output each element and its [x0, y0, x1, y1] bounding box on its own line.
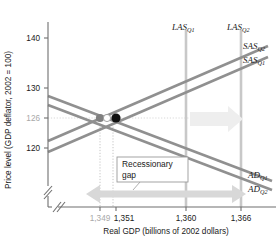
y-tick-label-120: 120: [26, 144, 40, 153]
x-tick-label-1366: 1,366: [231, 214, 252, 223]
equilibrium-point-gray: [96, 114, 104, 122]
svg-text:LASQ2: LASQ2: [226, 22, 250, 33]
svg-text:SASQ2: SASQ2: [243, 41, 265, 52]
ad-q2-label: ADQ2: [247, 184, 268, 195]
y-tick-label-130: 130: [26, 84, 40, 93]
svg-text:ADQ1: ADQ1: [247, 170, 268, 181]
svg-text:SASQ1: SASQ1: [243, 55, 265, 66]
las-q1-label-sub: Q1: [187, 26, 195, 33]
x-tick-label-1349: 1,349: [90, 214, 111, 223]
svg-text:ADQ2: ADQ2: [247, 184, 268, 195]
recessionary-gap-line2: gap: [122, 170, 136, 180]
x-tick-label-1360: 1,360: [176, 214, 197, 223]
sas-q1-label: SASQ1: [243, 55, 265, 66]
aggregate-supply-demand-chart: Recessionary gap 140 130 126 120 1,349 1…: [0, 0, 280, 241]
sas-q1-label-sub: Q1: [258, 59, 266, 66]
potential-gdp-shift-arrow: [190, 106, 243, 132]
ad-q1-label-sub: Q1: [260, 174, 268, 181]
y-axis-title: Price level (GDP deflator, 2002 = 100): [4, 51, 13, 189]
sas-q2-label-sub: Q2: [258, 45, 266, 52]
ad-q2-label-sub: Q2: [260, 188, 268, 195]
las-q1-label: LASQ1: [171, 22, 195, 33]
x-tick-label-1351: 1,351: [114, 214, 135, 223]
ad-q1-label: ADQ1: [247, 170, 268, 181]
las-q2-label-sub: Q2: [242, 26, 250, 33]
x-axis-title: Real GDP (billions of 2002 dollars): [103, 227, 229, 236]
ad-q2-label-main: AD: [247, 184, 260, 194]
svg-text:LASQ1: LASQ1: [171, 22, 195, 33]
y-tick-label-126: 126: [26, 114, 40, 123]
sas-q2-label: SASQ2: [243, 41, 265, 52]
sas-q2-curve: [48, 46, 268, 141]
recessionary-gap-leader-line: [133, 182, 140, 190]
recessionary-gap-callout: Recessionary gap: [117, 157, 188, 190]
recessionary-gap-line1: Recessionary: [122, 159, 174, 169]
sas-q1-label-main: SAS: [243, 55, 258, 65]
las-q2-label: LASQ2: [226, 22, 250, 33]
equilibrium-point-open: [103, 114, 110, 121]
sas-q2-label-main: SAS: [243, 41, 258, 51]
ad-q1-label-main: AD: [247, 170, 260, 180]
equilibrium-point-black: [111, 113, 120, 122]
chart-svg: Recessionary gap 140 130 126 120 1,349 1…: [0, 0, 280, 241]
output-gap-arrow: [86, 185, 246, 203]
las-q1-label-main: LAS: [171, 22, 188, 32]
y-tick-label-140: 140: [26, 34, 40, 43]
las-q2-label-main: LAS: [226, 22, 243, 32]
